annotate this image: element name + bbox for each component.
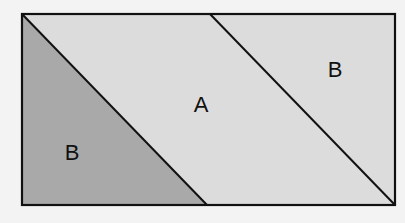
label-parallelogram: A xyxy=(194,92,209,117)
diagram-canvas: B A B xyxy=(0,0,405,223)
label-left-triangle: B xyxy=(65,140,80,165)
label-right-triangle: B xyxy=(328,57,343,82)
